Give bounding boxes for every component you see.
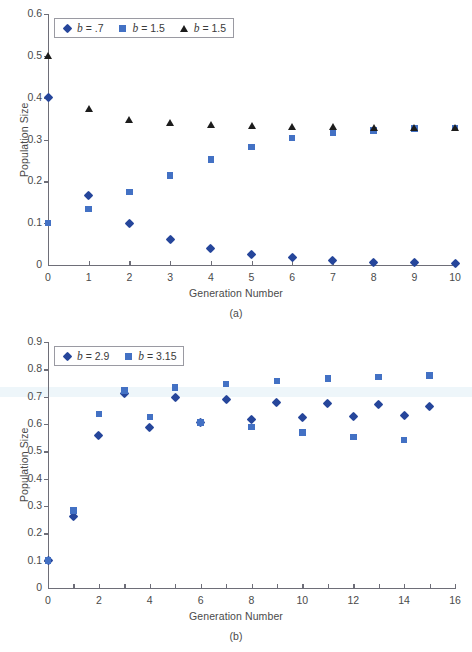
y-tick-label: 0.1	[12, 554, 42, 566]
data-point	[297, 413, 307, 423]
x-tick	[353, 584, 354, 588]
legend-label: b = .7	[77, 22, 103, 34]
x-tick	[201, 584, 202, 588]
y-tick-label: 0.9	[12, 335, 42, 347]
x-minor-tick	[226, 584, 227, 588]
y-tick-label: 0.4	[12, 91, 42, 103]
y-axis-title: Population Size	[18, 428, 30, 502]
x-minor-tick	[73, 584, 74, 588]
x-tick-label: 10	[440, 271, 470, 283]
data-point	[197, 419, 204, 426]
data-point	[325, 375, 332, 382]
x-tick	[455, 584, 456, 588]
legend-diamond-icon	[62, 23, 72, 33]
legend-triangle-icon	[180, 25, 188, 32]
data-point	[272, 397, 282, 407]
legend-label: b = 3.15	[138, 350, 176, 362]
legend-entry: b = 3.15	[123, 350, 176, 362]
x-minor-tick	[328, 584, 329, 588]
x-minor-tick	[430, 584, 431, 588]
y-axis-title: Population Size	[18, 102, 30, 176]
x-tick-label: 8	[359, 271, 389, 283]
data-point	[425, 401, 435, 411]
data-point	[323, 399, 333, 409]
data-point	[43, 93, 53, 103]
y-tick-label: 0	[12, 258, 42, 270]
data-point	[350, 434, 357, 441]
x-tick-label: 8	[237, 594, 267, 606]
data-point	[166, 119, 174, 126]
scan-band	[0, 387, 472, 397]
data-point	[248, 144, 255, 151]
y-tick-label: 0.5	[12, 49, 42, 61]
x-tick	[252, 584, 253, 588]
x-tick-label: 5	[237, 271, 267, 283]
x-tick-label: 4	[196, 271, 226, 283]
data-point	[288, 123, 296, 130]
y-tick-label: 0	[12, 581, 42, 593]
legend-label: b = 1.5	[194, 22, 226, 34]
x-tick-label: 1	[74, 271, 104, 283]
y-tick	[44, 424, 48, 425]
x-tick-label: 9	[399, 271, 429, 283]
legend-entry: b = 1.5	[179, 22, 226, 34]
legend-marker-square	[117, 23, 127, 33]
data-point	[206, 243, 216, 253]
y-tick	[44, 369, 48, 370]
data-point	[70, 507, 77, 514]
data-point	[124, 219, 134, 229]
x-tick-label: 0	[33, 271, 63, 283]
data-point	[374, 400, 384, 410]
legend-square-icon	[119, 25, 126, 32]
data-point	[330, 130, 337, 137]
y-tick-label: 0.2	[12, 526, 42, 538]
data-point	[289, 135, 296, 142]
data-point	[207, 121, 215, 128]
data-point	[248, 122, 256, 129]
y-tick	[44, 342, 48, 343]
data-point	[44, 52, 52, 59]
y-axis-line	[48, 342, 49, 589]
x-tick	[211, 261, 212, 265]
x-tick-label: 6	[186, 594, 216, 606]
legend-label: b = 2.9	[77, 350, 109, 362]
legend-square-icon	[125, 353, 132, 360]
data-point	[299, 429, 306, 436]
plot-area-a: 00.10.20.30.40.50.6012345678910b = .7b =…	[0, 0, 472, 300]
data-point	[410, 124, 418, 131]
figure-panel-b: 00.10.20.30.40.50.60.70.80.9024681012141…	[0, 326, 472, 652]
data-point	[287, 253, 297, 263]
x-tick	[404, 584, 405, 588]
data-point	[399, 410, 409, 420]
legend-marker-diamond	[62, 351, 72, 361]
legend-marker-square	[123, 351, 133, 361]
x-tick-label: 3	[155, 271, 185, 283]
chart-legend: b = .7b = 1.5b = 1.5	[54, 18, 234, 38]
data-point	[426, 372, 433, 379]
x-tick-label: 2	[114, 271, 144, 283]
x-minor-tick	[379, 584, 380, 588]
data-point	[165, 234, 175, 244]
y-tick	[44, 397, 48, 398]
y-tick	[44, 181, 48, 182]
panel-caption: (a)	[0, 307, 472, 319]
x-tick-label: 10	[287, 594, 317, 606]
data-point	[208, 156, 215, 163]
legend-diamond-icon	[62, 351, 72, 361]
y-tick	[44, 506, 48, 507]
data-point	[126, 189, 133, 196]
legend-entry: b = .7	[62, 22, 103, 34]
y-tick	[44, 140, 48, 141]
legend-entry: b = 2.9	[62, 350, 109, 362]
y-tick-label: 0.8	[12, 362, 42, 374]
data-point	[370, 124, 378, 131]
x-tick	[170, 261, 171, 265]
data-point	[401, 437, 408, 444]
y-tick-label: 0.7	[12, 390, 42, 402]
data-point	[348, 411, 358, 421]
y-tick	[44, 479, 48, 480]
data-point	[125, 116, 133, 123]
data-point	[248, 424, 255, 431]
data-point	[450, 259, 460, 269]
y-tick	[44, 533, 48, 534]
